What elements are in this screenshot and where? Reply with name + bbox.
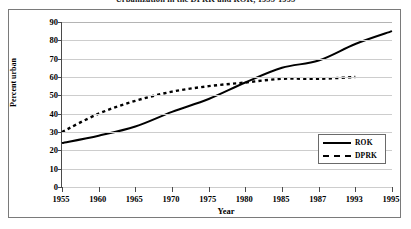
gridline — [62, 187, 392, 188]
y-axis-tick — [58, 40, 62, 41]
x-axis-tick-label: 1960 — [78, 194, 118, 204]
x-axis-tick — [172, 187, 173, 192]
legend-item-rok: ROK — [322, 136, 384, 149]
gridline — [62, 22, 392, 23]
y-axis-tick-labels: 0102030405060708090 — [28, 18, 58, 188]
x-axis-tick-label: 1965 — [114, 194, 154, 204]
x-axis-tick-label: 1985 — [261, 194, 301, 204]
x-axis-tick — [355, 187, 356, 192]
y-axis-tick — [58, 95, 62, 96]
chart-title: Urbanization in the DPRK and ROK, 1955-1… — [0, 0, 411, 5]
y-axis-tick-label: 10 — [28, 165, 58, 173]
y-axis-tick — [58, 77, 62, 78]
y-axis-tick — [58, 150, 62, 151]
y-axis-tick-label: 0 — [28, 183, 58, 191]
solid-line-icon — [322, 138, 352, 147]
gridline — [62, 132, 392, 133]
y-axis-tick-label: 70 — [28, 55, 58, 63]
y-axis-tick — [58, 114, 62, 115]
y-axis-tick-label: 30 — [28, 128, 58, 136]
gridline — [62, 95, 392, 96]
x-axis-tick — [392, 187, 393, 192]
gridline — [62, 59, 392, 60]
y-axis-tick — [58, 132, 62, 133]
y-axis-tick — [58, 169, 62, 170]
x-axis-tick-label: 1993 — [334, 194, 374, 204]
x-axis-tick — [245, 187, 246, 192]
chart-figure: Urbanization in the DPRK and ROK, 1955-1… — [0, 0, 411, 229]
x-axis-tick — [99, 187, 100, 192]
x-axis-tick-label: 1975 — [188, 194, 228, 204]
x-axis-tick-label: 1980 — [224, 194, 264, 204]
x-axis-tick-label: 1970 — [151, 194, 191, 204]
y-axis-tick-label: 40 — [28, 110, 58, 118]
series-line-dprk — [62, 77, 355, 132]
x-axis-tick — [282, 187, 283, 192]
x-axis-label: Year — [61, 206, 391, 216]
y-axis-tick-label: 20 — [28, 146, 58, 154]
gridline — [62, 114, 392, 115]
legend-label-rok: ROK — [352, 138, 373, 147]
y-axis-tick — [58, 59, 62, 60]
legend-item-dprk: DPRK — [322, 149, 384, 162]
gridline — [62, 40, 392, 41]
y-axis-label: Percent urban — [9, 48, 18, 118]
y-axis-tick — [58, 22, 62, 23]
dashed-line-icon — [322, 151, 352, 160]
x-axis-tick-labels: 1955196019651970197519801985198719931995 — [61, 194, 391, 206]
gridline — [62, 169, 392, 170]
x-axis-tick-label: 1955 — [41, 194, 81, 204]
y-axis-tick-label: 60 — [28, 73, 58, 81]
x-axis-tick — [135, 187, 136, 192]
x-axis-tick — [62, 187, 63, 192]
x-axis-tick-label: 1995 — [371, 194, 411, 204]
legend-label-dprk: DPRK — [352, 151, 377, 160]
x-axis-tick-label: 1987 — [298, 194, 338, 204]
x-axis-tick — [209, 187, 210, 192]
chart-legend: ROK DPRK — [318, 134, 386, 164]
y-axis-tick-label: 80 — [28, 36, 58, 44]
x-axis-tick — [319, 187, 320, 192]
y-axis-tick-label: 90 — [28, 18, 58, 26]
gridline — [62, 77, 392, 78]
y-axis-tick-label: 50 — [28, 91, 58, 99]
series-line-rok — [62, 31, 392, 143]
